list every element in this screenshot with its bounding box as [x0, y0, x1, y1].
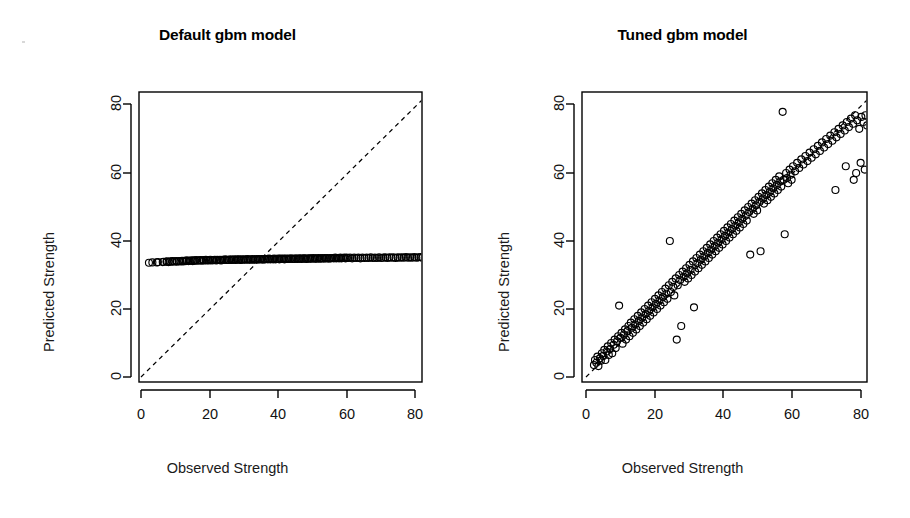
y-tick-label: 40: [551, 223, 567, 257]
data-point: [616, 302, 623, 309]
data-layer: [141, 95, 427, 377]
x-tick-label: 20: [190, 406, 230, 422]
panel-tuned-gbm: Tuned gbm model Observed Strength 020406…: [455, 0, 910, 518]
y-tick-label: 80: [551, 86, 567, 120]
identity-reference-line: [141, 95, 427, 377]
data-point: [779, 108, 786, 115]
y-tick-label: 0: [108, 359, 124, 393]
panel-default-gbm: Default gbm model Observed Strength Pred…: [0, 0, 455, 518]
y-tick-label: 40: [108, 223, 124, 257]
data-point: [747, 251, 754, 258]
x-tick-label: 80: [841, 406, 881, 422]
y-axis-title-right: Predicted Strength: [496, 232, 512, 352]
plot-area-tuned-gbm: [455, 0, 910, 518]
data-point: [690, 304, 697, 311]
data-point: [856, 125, 863, 132]
data-point: [850, 176, 857, 183]
data-point: [842, 163, 849, 170]
x-tick-label: 40: [258, 406, 298, 422]
data-layer: [586, 95, 872, 377]
x-axis-title-right: Observed Strength: [455, 460, 910, 476]
data-point: [757, 248, 764, 255]
x-tick-label: 40: [703, 406, 743, 422]
data-point: [832, 187, 839, 194]
y-tick-label: 20: [551, 291, 567, 325]
x-tick-label: 0: [121, 406, 161, 422]
data-point: [862, 112, 869, 119]
data-point: [781, 231, 788, 238]
x-tick-label: 80: [395, 406, 435, 422]
figure-two-panel-scatter: Default gbm model Observed Strength Pred…: [0, 0, 910, 518]
scatter-points: [590, 108, 870, 369]
x-tick-label: 60: [772, 406, 812, 422]
data-point: [673, 336, 680, 343]
plot-area-default-gbm: [0, 0, 455, 518]
x-tick-label: 60: [327, 406, 367, 422]
data-point: [666, 238, 673, 245]
y-tick-label: 60: [551, 155, 567, 189]
x-tick-label: 0: [566, 406, 606, 422]
y-tick-label: 60: [108, 155, 124, 189]
x-axis-title-left: Observed Strength: [0, 460, 455, 476]
scatter-points: [145, 253, 425, 266]
data-point: [678, 323, 685, 330]
plot-frame: [139, 92, 422, 382]
x-tick-label: 20: [635, 406, 675, 422]
data-point: [857, 159, 864, 166]
y-tick-label: 20: [108, 291, 124, 325]
y-axis-title-left: Predicted Strength: [41, 232, 57, 352]
y-tick-label: 80: [108, 86, 124, 120]
y-tick-label: 0: [551, 359, 567, 393]
data-point: [853, 170, 860, 177]
